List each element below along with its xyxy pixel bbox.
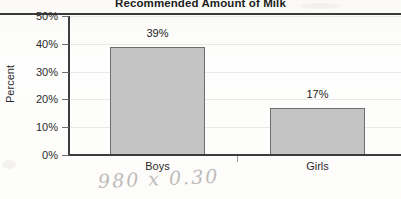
y-axis-line [68,16,70,156]
category-separator-tick [237,156,238,162]
y-tick-label-0: 0% [0,149,58,161]
y-tick-label-10: 10% [0,121,58,133]
y-tick-label-40: 40% [0,38,58,50]
bar-value-label-boys: 39% [110,27,205,39]
bar-boys [110,47,205,155]
x-axis-line [68,154,401,156]
y-tick-label-30: 30% [0,66,58,78]
chart-title: Recommended Amount of Milk [0,0,401,9]
bar-value-label-girls: 17% [270,88,365,100]
y-tick-50 [62,16,69,17]
y-tick-40 [62,44,69,45]
gridline-50 [68,16,401,17]
y-tick-label-20: 20% [0,93,58,105]
y-tick-0 [62,155,69,156]
handwritten-note: 980 x 0.30 [98,165,220,192]
bar-girls [270,108,365,155]
title-divider-rule [0,13,401,15]
scan-smudge [2,160,16,169]
y-tick-10 [62,127,69,128]
y-tick-30 [62,72,69,73]
y-tick-20 [62,99,69,100]
gridline-40 [68,44,401,45]
y-tick-label-50: 50% [0,10,58,22]
chart-page: Recommended Amount of Milk Percent 50% 4… [0,0,401,199]
category-label-girls: Girls [270,160,365,172]
